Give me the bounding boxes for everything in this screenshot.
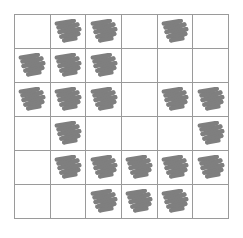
grid-cell[interactable] xyxy=(15,49,51,83)
scribble-icon xyxy=(89,87,119,113)
grid-cell[interactable] xyxy=(51,15,87,49)
grid-cell[interactable] xyxy=(122,15,158,49)
figure-canvas xyxy=(0,0,243,238)
grid-cell[interactable] xyxy=(158,151,194,185)
grid-cell[interactable] xyxy=(51,185,87,219)
grid-cell[interactable] xyxy=(51,151,87,185)
grid-cell[interactable] xyxy=(86,83,122,117)
scribble-icon xyxy=(124,155,154,181)
scribble-icon xyxy=(17,87,47,113)
grid-cell[interactable] xyxy=(86,151,122,185)
grid-cell[interactable] xyxy=(122,49,158,83)
grid-cell[interactable] xyxy=(158,185,194,219)
grid-cell[interactable] xyxy=(15,83,51,117)
scribble-icon xyxy=(160,19,190,45)
grid-cell[interactable] xyxy=(15,151,51,185)
scribble-icon xyxy=(89,19,119,45)
grid-cell[interactable] xyxy=(193,117,229,151)
grid-cell[interactable] xyxy=(158,15,194,49)
scribble-icon xyxy=(53,19,83,45)
scribble-icon xyxy=(17,53,47,79)
scribble-icon xyxy=(196,121,226,147)
scribble-icon xyxy=(160,87,190,113)
grid-cell[interactable] xyxy=(86,117,122,151)
grid-cell[interactable] xyxy=(51,49,87,83)
grid-cell[interactable] xyxy=(193,15,229,49)
grid-cell[interactable] xyxy=(122,83,158,117)
scribble-icon xyxy=(196,155,226,181)
grid-cell[interactable] xyxy=(15,117,51,151)
grid-cell[interactable] xyxy=(193,185,229,219)
scribble-icon xyxy=(160,155,190,181)
grid-cell[interactable] xyxy=(86,185,122,219)
grid-cell[interactable] xyxy=(122,151,158,185)
grid-cell[interactable] xyxy=(51,83,87,117)
grid-cell[interactable] xyxy=(158,83,194,117)
scribble-icon xyxy=(53,155,83,181)
scribble-icon xyxy=(124,189,154,215)
grid-cell[interactable] xyxy=(86,49,122,83)
scribble-icon xyxy=(196,87,226,113)
grid-cell[interactable] xyxy=(193,151,229,185)
grid-cell[interactable] xyxy=(193,83,229,117)
scribble-icon xyxy=(53,53,83,79)
grid-cell[interactable] xyxy=(15,185,51,219)
scribble-icon xyxy=(89,53,119,79)
grid-cell[interactable] xyxy=(193,49,229,83)
grid-cell[interactable] xyxy=(15,15,51,49)
scribble-icon xyxy=(160,189,190,215)
mark-grid xyxy=(14,14,229,219)
grid-cell[interactable] xyxy=(122,117,158,151)
grid-cell[interactable] xyxy=(158,117,194,151)
scribble-icon xyxy=(89,189,119,215)
grid-cell[interactable] xyxy=(86,15,122,49)
grid-cell[interactable] xyxy=(51,117,87,151)
scribble-icon xyxy=(53,121,83,147)
scribble-icon xyxy=(89,155,119,181)
scribble-icon xyxy=(53,87,83,113)
grid-cell[interactable] xyxy=(158,49,194,83)
grid-cell[interactable] xyxy=(122,185,158,219)
